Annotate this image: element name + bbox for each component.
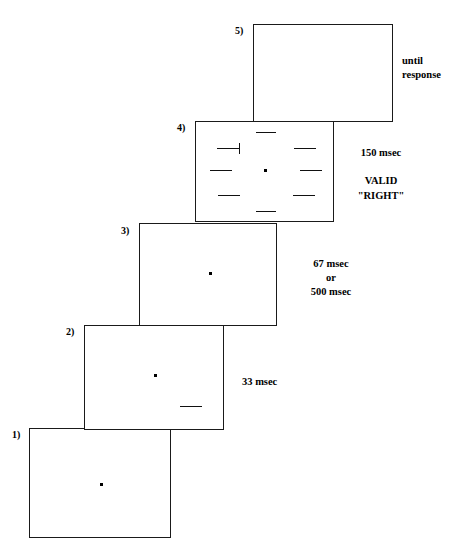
- annotation-panel-5: until response: [402, 54, 441, 82]
- annotation-panel-4-response: "RIGHT": [345, 189, 417, 203]
- distractor-line-middle-right: [300, 170, 322, 171]
- annotation-panel-4-spacer: [345, 160, 417, 174]
- stimulus-panel-5: [253, 24, 393, 122]
- annotation-panel-3-conjunction: or: [295, 271, 367, 285]
- annotation-panel-3: 67 msec or 500 msec: [295, 257, 367, 300]
- distractor-line-middle-left: [210, 170, 232, 171]
- fixation-dot-panel-3: [209, 272, 212, 275]
- distractor-line-upper-right: [294, 148, 316, 149]
- fixation-dot-panel-4: [264, 169, 267, 172]
- panel-label-3: 3): [121, 226, 129, 236]
- distractor-line-lower-right: [293, 195, 315, 196]
- annotation-panel-5-line-1: until: [402, 54, 441, 68]
- trial-sequence-figure: 1) 2) 33 msec 3) 67 msec or 500 msec: [0, 0, 467, 547]
- target-tick-upper-left: [239, 143, 240, 154]
- annotation-panel-5-line-2: response: [402, 68, 441, 82]
- distractor-line-bottom-center: [256, 211, 276, 212]
- panel-label-5: 5): [235, 26, 243, 36]
- annotation-panel-4: 150 msec VALID "RIGHT": [345, 146, 417, 203]
- fixation-dot-panel-1: [100, 483, 103, 486]
- stimulus-panel-4: [195, 121, 334, 222]
- annotation-panel-2-duration: 33 msec: [242, 375, 277, 389]
- stimulus-panel-2: [84, 325, 224, 430]
- distractor-line-top-center: [256, 132, 276, 133]
- annotation-panel-3-duration-second: 500 msec: [295, 285, 367, 299]
- annotation-panel-4-validity: VALID: [345, 174, 417, 188]
- fixation-dot-panel-2: [154, 374, 157, 377]
- target-line-upper-left: [217, 148, 239, 149]
- panel-label-4: 4): [177, 123, 185, 133]
- cue-line-lower-right-panel-2: [180, 406, 202, 407]
- annotation-panel-2: 33 msec: [242, 375, 277, 389]
- distractor-line-lower-left: [218, 195, 240, 196]
- panel-label-1: 1): [12, 430, 20, 440]
- stimulus-panel-1: [29, 428, 171, 538]
- stimulus-panel-3: [139, 223, 277, 326]
- panel-label-2: 2): [66, 327, 74, 337]
- annotation-panel-4-duration: 150 msec: [345, 146, 417, 160]
- annotation-panel-3-duration-first: 67 msec: [295, 257, 367, 271]
